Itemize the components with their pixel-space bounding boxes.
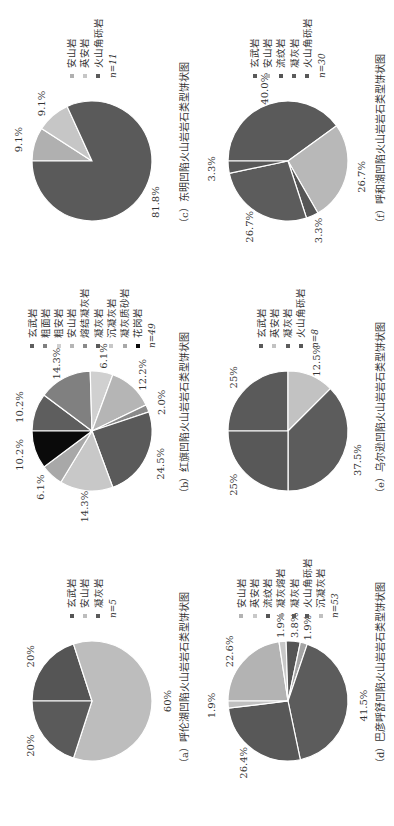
legend-swatch-icon (272, 344, 276, 348)
legend-label: 沉凝灰岩 (105, 298, 118, 338)
legend-label: 凝灰质砂岩 (118, 288, 131, 338)
legend-label: 英安岩 (248, 578, 261, 608)
legend-swatch-icon (96, 344, 100, 348)
slice-percent-label: 26.7% (356, 161, 367, 193)
slice-percent-label: 24.5% (155, 448, 166, 480)
legend-swatch-icon (30, 344, 34, 348)
legend: 玄武岩安山岩流纹岩凝灰岩火山角砾岩n=30 (248, 18, 329, 78)
legend-label: 凝灰岩 (288, 578, 301, 608)
slice-percent-label: 1.9% (302, 615, 313, 640)
sample-count: n=30 (316, 18, 329, 78)
legend-item: 火山角砾岩 (301, 18, 314, 78)
legend-item: 火山角砾岩 (294, 288, 307, 348)
legend-swatch-icon (70, 614, 74, 618)
legend-label: 安山岩 (65, 38, 78, 68)
legend-item: 安山岩 (65, 288, 78, 348)
legend-item: 玄武岩 (248, 18, 261, 78)
slice-percent-label: 3.3% (206, 156, 217, 181)
legend-item: 英安岩 (268, 288, 281, 348)
legend-item: 粗面岩 (39, 288, 52, 348)
slice-percent-label: 26.4% (238, 747, 249, 779)
legend: 玄武岩英安岩凝灰岩火山角砾岩n=8 (255, 288, 323, 348)
panel-caption: （d）巴彦呼舒凹陷火山岩岩石类型饼状图 (372, 582, 387, 768)
slice-percent-label: 25% (228, 474, 239, 496)
legend-swatch-icon (109, 344, 113, 348)
slice-percent-label: 12.2% (137, 359, 148, 391)
legend-swatch-icon (259, 344, 263, 348)
legend-label: 火山角砾岩 (92, 18, 105, 68)
legend-item: 凝灰岩 (281, 288, 294, 348)
sample-count: n=49 (146, 288, 159, 348)
legend-swatch-icon (96, 614, 100, 618)
slice-percent-label: 26.7% (244, 211, 255, 243)
legend-label: 凝灰岩 (92, 578, 105, 608)
legend-item: 英安岩 (248, 558, 261, 618)
legend-swatch-icon (96, 74, 100, 78)
legend-swatch-icon (305, 614, 309, 618)
legend-swatch-icon (319, 614, 323, 618)
legend-label: 沉凝灰岩 (314, 568, 327, 608)
legend-item: 流纹岩 (261, 558, 274, 618)
pie-panel-a: 20%60%20%玄武岩安山岩凝灰岩n=5（a）呼伦湖凹陷火山岩岩石类型饼状图 (0, 541, 192, 806)
legend: 玄武岩粗面岩粗安岩安山岩熔结凝灰岩凝灰岩沉凝灰岩凝灰质砂岩花岗岩n=49 (26, 288, 160, 348)
legend-item: 粗安岩 (52, 288, 65, 348)
legend-swatch-icon (83, 344, 87, 348)
legend-label: 安山岩 (235, 578, 248, 608)
legend-label: 火山角砾岩 (294, 288, 307, 338)
legend-swatch-icon (253, 74, 257, 78)
legend-label: 凝灰岩 (288, 38, 301, 68)
legend-item: 凝灰岩 (288, 18, 301, 78)
legend-item: 玄武岩 (26, 288, 39, 348)
legend-swatch-icon (70, 74, 74, 78)
slice-percent-label: 1.9% (206, 693, 217, 718)
pie-panel-e: 25%12.5%37.5%25%玄武岩英安岩凝灰岩火山角砾岩n=8（e）乌尔逊凹… (196, 271, 388, 536)
pie-panel-f: 40.0%26.7%3.3%26.7%3.3%玄武岩安山岩流纹岩凝灰岩火山角砾岩… (196, 1, 388, 266)
legend-swatch-icon (286, 344, 290, 348)
legend-label: 花岗岩 (131, 308, 144, 338)
slice-percent-label: 9.1% (36, 91, 47, 116)
legend: 玄武岩安山岩凝灰岩n=5 (65, 578, 120, 618)
legend-item: 花岗岩 (131, 288, 144, 348)
panel-caption: （a）呼伦湖凹陷火山岩岩石类型饼状图 (176, 592, 191, 768)
legend-label: 粗面岩 (39, 308, 52, 338)
legend-item: 流纹岩 (274, 18, 287, 78)
legend-item: 沉凝灰岩 (314, 558, 327, 618)
legend-swatch-icon (253, 614, 257, 618)
legend-label: 玄武岩 (255, 308, 268, 338)
legend-label: 玄武岩 (26, 308, 39, 338)
slice-percent-label: 2.0% (156, 390, 167, 415)
legend-item: 熔结凝灰岩 (78, 288, 91, 348)
legend: 安山岩英安岩火山角砾岩n=11 (65, 18, 120, 78)
panel-caption: （c）东明凹陷火山岩岩石类型饼状图 (176, 62, 191, 228)
legend-label: 流纹岩 (274, 38, 287, 68)
panel-caption: （b）红旗凹陷火山岩岩石类型饼状图 (176, 332, 191, 498)
legend-item: 沉凝灰岩 (105, 288, 118, 348)
legend-item: 凝灰岩 (92, 288, 105, 348)
legend-item: 火山角砾岩 (301, 558, 314, 618)
panel-caption: （f）呼和湖凹陷火山岩岩石类型饼状图 (372, 54, 387, 228)
legend-swatch-icon (299, 344, 303, 348)
legend-swatch-icon (279, 614, 283, 618)
pie-panel-b: 10.2%14.3%6.1%12.2%2.0%24.5%14.3%6.1%10.… (0, 271, 192, 536)
legend-item: 凝灰质砂岩 (118, 288, 131, 348)
legend-label: 凝灰熔岩 (274, 568, 287, 608)
slice-percent-label: 22.6% (224, 636, 235, 668)
legend: 安山岩英安岩流纹岩凝灰熔岩凝灰岩火山角砾岩沉凝灰岩n=53 (235, 558, 343, 618)
legend-swatch-icon (239, 614, 243, 618)
slice-percent-label: 14.3% (51, 348, 62, 380)
legend-item: 火山角砾岩 (92, 18, 105, 78)
legend-swatch-icon (292, 614, 296, 618)
slice-percent-label: 3.3% (313, 218, 324, 243)
legend-label: 粗安岩 (52, 308, 65, 338)
legend-swatch-icon (43, 344, 47, 348)
slice-percent-label: 60% (162, 690, 173, 712)
legend-item: 安山岩 (78, 578, 91, 618)
slice-percent-label: 81.8% (150, 186, 161, 218)
legend-item: 凝灰岩 (92, 578, 105, 618)
pie-panel-c: 9.1%9.1%81.8%安山岩英安岩火山角砾岩n=11（c）东明凹陷火山岩岩石… (0, 1, 192, 266)
legend-label: 安山岩 (65, 308, 78, 338)
legend-label: 流纹岩 (261, 578, 274, 608)
legend-swatch-icon (83, 74, 87, 78)
legend-swatch-icon (136, 344, 140, 348)
legend-label: 安山岩 (78, 578, 91, 608)
